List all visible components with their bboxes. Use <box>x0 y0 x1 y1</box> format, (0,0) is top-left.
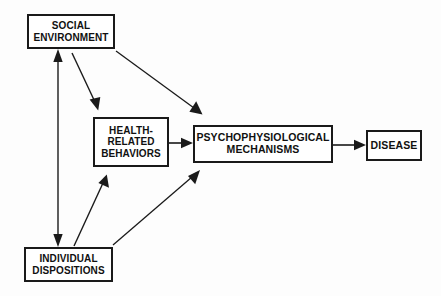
node-psychophysiological-mechanisms[interactable]: PSYCHOPHYSIOLOGICAL MECHANISMS <box>193 125 333 163</box>
node-health-related-behaviors-label: HEALTH- RELATED BEHAVIORS <box>95 125 167 159</box>
node-health-related-behaviors[interactable]: HEALTH- RELATED BEHAVIORS <box>93 117 169 167</box>
edge-health-behaviors-to-mechanisms <box>169 138 193 148</box>
edge-social-env-to-mechanisms <box>116 51 203 115</box>
node-social-environment-label: SOCIAL ENVIRONMENT <box>29 20 113 42</box>
edge-social-env-to-individual-dispositions <box>53 49 62 247</box>
node-social-environment[interactable]: SOCIAL ENVIRONMENT <box>27 14 115 49</box>
edge-individual-dispositions-to-health-behaviors <box>74 175 109 247</box>
edge-social-env-to-health-behaviors <box>72 53 100 111</box>
node-disease[interactable]: DISEASE <box>366 130 422 161</box>
node-individual-dispositions[interactable]: INDIVIDUAL DISPOSITIONS <box>24 247 113 282</box>
node-individual-dispositions-label: INDIVIDUAL DISPOSITIONS <box>26 253 111 275</box>
diagram-canvas-container: Individual Dispositions (double-headed v… <box>0 0 441 296</box>
node-psychophysiological-mechanisms-label: PSYCHOPHYSIOLOGICAL MECHANISMS <box>195 132 331 156</box>
edge-mechanisms-to-disease <box>333 140 366 150</box>
edge-individual-dispositions-to-mechanisms <box>113 170 200 245</box>
node-disease-label: DISEASE <box>368 140 420 152</box>
